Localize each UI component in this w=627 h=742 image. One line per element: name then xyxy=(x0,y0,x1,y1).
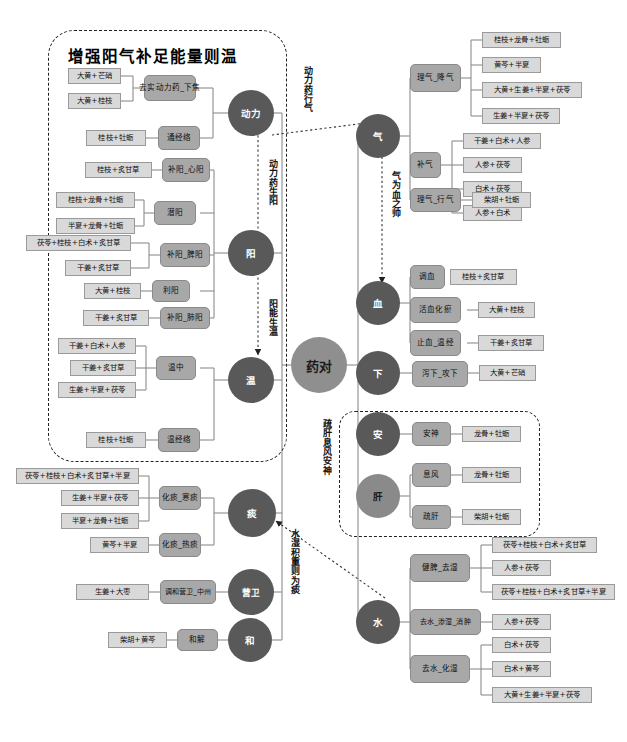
relation-label-yang-neng-shengwen: 阳能生温 xyxy=(268,300,279,337)
node-circle-an[interactable]: 安 xyxy=(356,412,400,456)
node-hub-yaodui[interactable]: 药对 xyxy=(291,337,347,393)
node-circle-tan[interactable]: 痰 xyxy=(228,489,276,537)
leaf-chaihu-huangqin-1[interactable]: 柴胡+黄芩 xyxy=(108,632,167,648)
leaf-guizhi-longgu-muli-1[interactable]: 桂枝+龙骨+牡蛎 xyxy=(56,192,135,208)
leaf-ganjiang-zhigancao-4[interactable]: 干姜+炙甘草 xyxy=(478,335,544,351)
node-circle-yang[interactable]: 阳 xyxy=(228,230,274,276)
leaf-chaihu-muli-1[interactable]: 柴胡+牡蛎 xyxy=(472,192,531,208)
leaf-guizhi-zhigancao-2[interactable]: 桂枝+炙甘草 xyxy=(450,269,517,285)
leaf-huangqin-banxia-1[interactable]: 黄芩+半夏 xyxy=(90,537,149,553)
mid-buqi[interactable]: 补气 xyxy=(410,152,441,178)
leaf-dahuang-guizhi-2[interactable]: 大黄+桂枝 xyxy=(84,283,141,299)
mid-anshen[interactable]: 安神 xyxy=(412,422,451,446)
node-circle-shui[interactable]: 水 xyxy=(356,600,400,644)
mid-wenjingluo[interactable]: 温经络 xyxy=(158,428,200,452)
leaf-fuling-guizhi-baizhu-zhigancao-1[interactable]: 茯苓+桂枝+白术+炙甘草 xyxy=(26,235,131,251)
mid-liyang[interactable]: 利阳 xyxy=(152,280,190,302)
node-circle-qi[interactable]: 气 xyxy=(356,114,400,158)
relation-label-dongli-yao-shengyang: 动力药生阳 xyxy=(268,160,279,207)
mid-huatan-hantan[interactable]: 化痰_寒痰 xyxy=(159,486,201,510)
mid-wenzhong[interactable]: 温中 xyxy=(156,356,196,380)
relation-label-dongli-yao-xingqi: 动力药行气 xyxy=(303,67,314,114)
relation-label-shugan-xifeng-anshen: 疏肝息风安神 xyxy=(322,420,333,476)
leaf-dahuang-shengjiang-banxia-fuling-1[interactable]: 大黄+生姜+半夏+茯苓 xyxy=(482,82,582,98)
mid-tongjingluo[interactable]: 通经络 xyxy=(158,126,200,150)
leaf-dahuang-guizhi-3[interactable]: 大黄+桂枝 xyxy=(478,302,535,318)
leaf-guizhi-zhigancao-1[interactable]: 桂枝+炙甘草 xyxy=(85,162,152,178)
mid-qianyang[interactable]: 潜阳 xyxy=(154,201,196,225)
leaf-banxia-longgu-muli-2[interactable]: 半夏+龙骨+牡蛎 xyxy=(61,513,139,529)
leaf-dahuang-mangxiao-2[interactable]: 大黄+芒硝 xyxy=(479,365,536,381)
mid-buyang-piyang[interactable]: 补阳_脾阳 xyxy=(160,243,210,267)
leaf-banxia-longgu-muli-1[interactable]: 半夏+龙骨+牡蛎 xyxy=(56,218,135,234)
leaf-shengjiang-banxia-fuling-3[interactable]: 生姜+半夏+茯苓 xyxy=(482,108,560,124)
relation-label-shuishi-jizhong-zewei-tan: 水湿积重则为痰 xyxy=(290,530,301,596)
node-circle-xia[interactable]: 下 xyxy=(356,351,400,395)
mid-qushi-dongliyao-xiajiao[interactable]: 去实动力药_下焦 xyxy=(144,75,196,101)
node-circle-he[interactable]: 和 xyxy=(228,618,272,662)
mid-shugan[interactable]: 疏肝 xyxy=(412,505,451,529)
mid-buyang-xinyang[interactable]: 补阳_心阳 xyxy=(162,158,210,182)
mid-huoxue-huayu[interactable]: 活血化瘀 xyxy=(410,297,461,323)
node-circle-dongli[interactable]: 动力 xyxy=(228,90,274,136)
leaf-ganjiang-zhigancao-3[interactable]: 干姜+炙甘草 xyxy=(70,360,136,376)
leaf-longgu-muli-1[interactable]: 龙骨+牡蛎 xyxy=(462,426,521,442)
mid-hejie[interactable]: 和解 xyxy=(177,629,218,651)
mid-tiaohe-yingwei-zhongzhou[interactable]: 调和营卫_中州 xyxy=(160,580,216,604)
mid-liqi-jiangqi[interactable]: 理气_降气 xyxy=(410,64,461,92)
mid-huatan-retan[interactable]: 化痰_热痰 xyxy=(159,533,201,557)
leaf-renshen-fuling-1[interactable]: 人参+茯苓 xyxy=(463,157,522,173)
mid-zhixue-wenjing[interactable]: 止血_温经 xyxy=(410,330,461,356)
leaf-dahuang-mangxiao-1[interactable]: 大黄+芒硝 xyxy=(68,68,121,84)
mid-buyang-feiyang[interactable]: 补阳_肺阳 xyxy=(160,307,210,329)
leaf-guizhi-longgu-muli-2[interactable]: 桂枝+龙骨+牡蛎 xyxy=(482,32,561,48)
leaf-guizhi-muli-2[interactable]: 桂枝+牡蛎 xyxy=(86,432,146,448)
leaf-renshen-fuling-2[interactable]: 人参+茯苓 xyxy=(492,560,551,576)
node-circle-gan[interactable]: 肝 xyxy=(356,474,400,518)
leaf-shengjiang-banxia-fuling-2[interactable]: 生姜+半夏+茯苓 xyxy=(61,490,139,506)
mid-xiexia-gongxia[interactable]: 泻下_攻下 xyxy=(412,361,468,387)
mid-liqi-xingqi[interactable]: 理气_行气 xyxy=(410,188,461,212)
leaf-ganjiang-baizhu-renshen-1[interactable]: 干姜+白术+人参 xyxy=(58,338,136,354)
node-circle-wen[interactable]: 温 xyxy=(228,357,274,403)
leaf-ganjiang-zhigancao-2[interactable]: 干姜+炙甘草 xyxy=(83,310,149,326)
leaf-baizhu-fuling-2[interactable]: 白术+茯苓 xyxy=(492,637,551,653)
leaf-baizhu-huangqin-1[interactable]: 白术+黄芩 xyxy=(492,661,551,677)
leaf-chaihu-muli-2[interactable]: 柴胡+牡蛎 xyxy=(462,509,521,525)
mid-tiaoxue[interactable]: 调血 xyxy=(410,265,445,289)
leaf-ganjiang-zhigancao-1[interactable]: 干姜+炙甘草 xyxy=(65,260,131,276)
leaf-renshen-fuling-3[interactable]: 人参+茯苓 xyxy=(492,614,551,630)
leaf-ganjiang-baizhu-renshen-2[interactable]: 干姜+白术+人参 xyxy=(463,133,541,149)
leaf-shengjiang-banxia-fuling-1[interactable]: 生姜+半夏+茯苓 xyxy=(58,382,136,398)
mid-qushui-huashi[interactable]: 去水_化湿 xyxy=(410,655,470,683)
leaf-dahuang-shengjiang-banxia-fuling-2[interactable]: 大黄+生姜+半夏+茯苓 xyxy=(492,687,592,703)
mid-xifeng[interactable]: 息风 xyxy=(412,463,451,487)
relation-label-qi-wei-xue-zhi-shuai: 气为血之帅 xyxy=(391,172,402,219)
leaf-fuling-guizhi-baizhu-zhigancao-banxia-2[interactable]: 茯苓+桂枝+白术+炙甘草+半夏 xyxy=(492,584,615,600)
node-circle-xue[interactable]: 血 xyxy=(356,281,400,325)
mid-qushui-shenshi-xiaozhong[interactable]: 去水_渗湿_消肿 xyxy=(410,609,481,635)
leaf-longgu-muli-2[interactable]: 龙骨+牡蛎 xyxy=(462,467,521,483)
leaf-huangqin-banxia-2[interactable]: 黄芩+半夏 xyxy=(482,57,541,73)
leaf-guizhi-muli-1[interactable]: 桂枝+牡蛎 xyxy=(86,130,146,146)
diagram-canvas: 增强阳气补足能量则温 药对 动力药行气 动力药生阳 阳能生温 气为血之帅 疏肝息… xyxy=(0,0,627,742)
leaf-fuling-guizhi-baizhu-zhigancao-2[interactable]: 茯苓+桂枝+白术+炙甘草 xyxy=(492,537,597,553)
section-title: 增强阳气补足能量则温 xyxy=(68,44,238,66)
mid-jianpi-qushi[interactable]: 健脾_去湿 xyxy=(410,554,470,582)
leaf-fuling-guizhi-baizhu-zhigancao-banxia-1[interactable]: 茯苓+桂枝+白术+炙甘草+半夏 xyxy=(16,468,139,484)
leaf-shengjiang-dazao-1[interactable]: 生姜+大枣 xyxy=(76,584,149,600)
node-circle-yingwei[interactable]: 营卫 xyxy=(228,569,274,615)
leaf-dahuang-guizhi-1[interactable]: 大黄+桂枝 xyxy=(68,93,121,109)
